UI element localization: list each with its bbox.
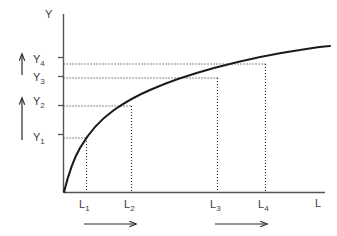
x-tick-label-4: L4 bbox=[258, 198, 269, 213]
y-tick-label-1: Y1 bbox=[33, 131, 45, 146]
y-axis-ticks bbox=[58, 58, 64, 135]
y-tick-label-4: Y4 bbox=[33, 53, 45, 68]
x-tick-label-1: L1 bbox=[79, 198, 90, 213]
y-axis-title: Y bbox=[45, 8, 53, 20]
x-tick-labels: L1 L2 L3 L4 bbox=[79, 198, 269, 213]
vertical-guide-lines bbox=[87, 64, 266, 192]
production-function-chart: Y L Y4 Y3 Y2 Y1 L1 L2 L3 L4 bbox=[0, 0, 337, 236]
x-tick-label-3: L3 bbox=[210, 198, 221, 213]
y-tick-label-3: Y3 bbox=[33, 71, 45, 86]
y-tick-labels: Y4 Y3 Y2 Y1 bbox=[33, 53, 45, 146]
y-tick-label-2: Y2 bbox=[33, 95, 45, 110]
x-axis-title: L bbox=[315, 197, 321, 209]
x-tick-label-2: L2 bbox=[124, 198, 135, 213]
production-function-curve bbox=[64, 46, 330, 192]
